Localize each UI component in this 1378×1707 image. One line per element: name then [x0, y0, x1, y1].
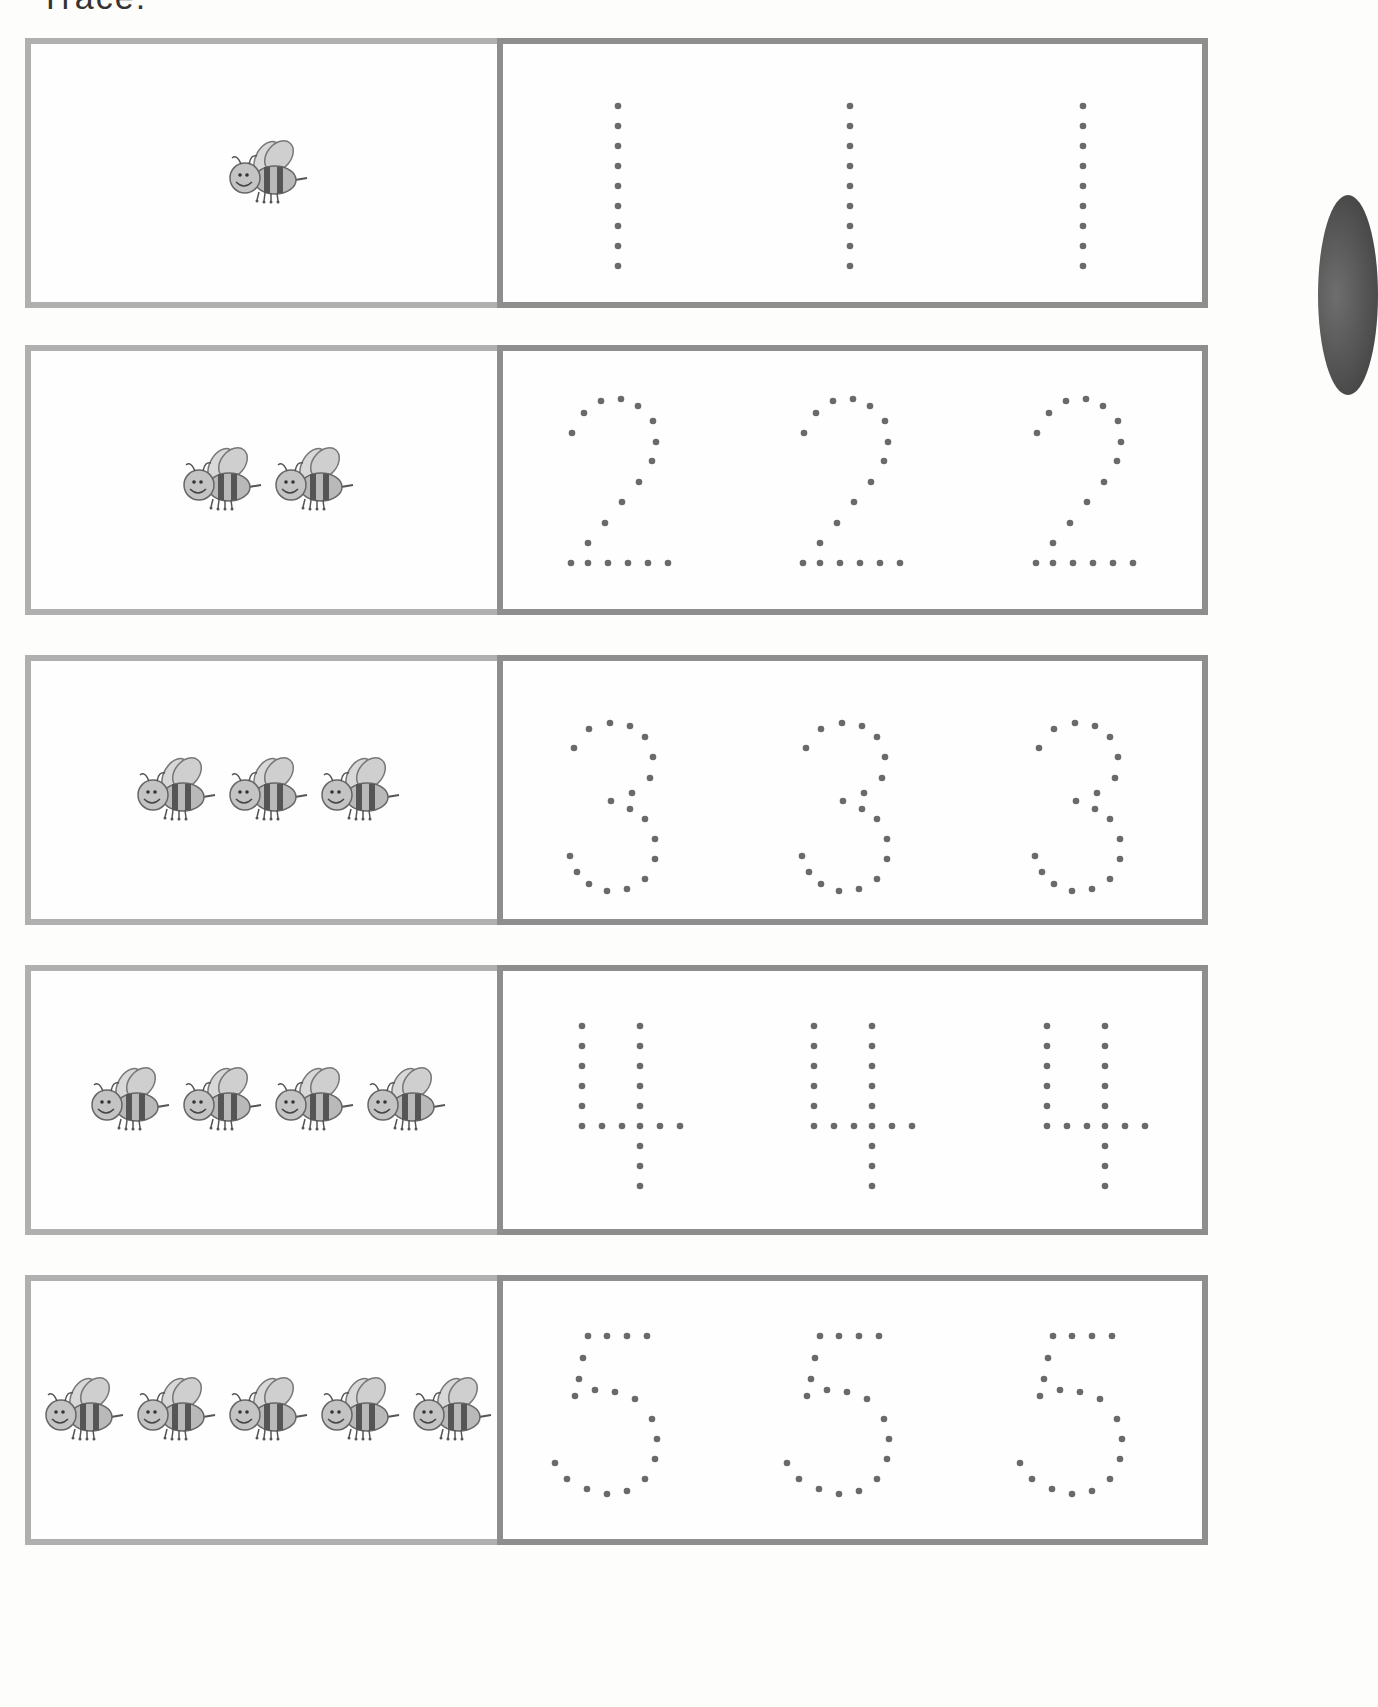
bee-icon: [35, 1375, 125, 1445]
page-tab-icon: [1318, 195, 1378, 395]
bee-group: [35, 1375, 493, 1445]
trace-cell-3-3[interactable]: [968, 655, 1208, 925]
bee-group: [219, 138, 309, 208]
trace-cell-2-2[interactable]: [735, 345, 974, 615]
dotted-digit-3: [968, 661, 1208, 931]
bee-group: [81, 1065, 447, 1135]
bee-group: [173, 445, 355, 515]
worksheet-instruction: Trace.: [40, 0, 147, 17]
dotted-digit-4: [735, 971, 974, 1241]
bee-picture-cell: [25, 38, 497, 308]
trace-cell-3-2[interactable]: [735, 655, 974, 925]
trace-cell-4-3[interactable]: [968, 965, 1208, 1235]
bee-picture-cell: [25, 1275, 497, 1545]
dotted-digit-2: [503, 351, 747, 621]
dotted-digit-5: [503, 1281, 747, 1551]
bee-picture-cell: [25, 965, 497, 1235]
bee-icon: [265, 445, 355, 515]
dotted-digit-4: [503, 971, 747, 1241]
bee-icon: [127, 1375, 217, 1445]
trace-cell-2-3[interactable]: [968, 345, 1208, 615]
trace-cell-5-1[interactable]: [497, 1275, 741, 1545]
dotted-digit-2: [968, 351, 1208, 621]
bee-icon: [81, 1065, 171, 1135]
dotted-digit-1: [735, 44, 974, 314]
dotted-digit-1: [968, 44, 1208, 314]
trace-cell-2-1[interactable]: [497, 345, 741, 615]
bee-icon: [219, 138, 309, 208]
dotted-digit-5: [968, 1281, 1208, 1551]
trace-cell-3-1[interactable]: [497, 655, 741, 925]
bee-icon: [219, 755, 309, 825]
trace-cell-1-1[interactable]: [497, 38, 741, 308]
dotted-digit-3: [503, 661, 747, 931]
bee-icon: [173, 1065, 263, 1135]
bee-picture-cell: [25, 345, 497, 615]
trace-cell-4-1[interactable]: [497, 965, 741, 1235]
bee-icon: [265, 1065, 355, 1135]
bee-icon: [127, 755, 217, 825]
dotted-digit-1: [503, 44, 747, 314]
bee-picture-cell: [25, 655, 497, 925]
trace-cell-1-2[interactable]: [735, 38, 974, 308]
dotted-digit-3: [735, 661, 974, 931]
dotted-digit-4: [968, 971, 1208, 1241]
bee-icon: [403, 1375, 493, 1445]
bee-group: [127, 755, 401, 825]
trace-cell-5-2[interactable]: [735, 1275, 974, 1545]
dotted-digit-2: [735, 351, 974, 621]
bee-icon: [311, 1375, 401, 1445]
trace-cell-5-3[interactable]: [968, 1275, 1208, 1545]
bee-icon: [311, 755, 401, 825]
bee-icon: [357, 1065, 447, 1135]
bee-icon: [173, 445, 263, 515]
trace-cell-4-2[interactable]: [735, 965, 974, 1235]
trace-cell-1-3[interactable]: [968, 38, 1208, 308]
bee-icon: [219, 1375, 309, 1445]
dotted-digit-5: [735, 1281, 974, 1551]
